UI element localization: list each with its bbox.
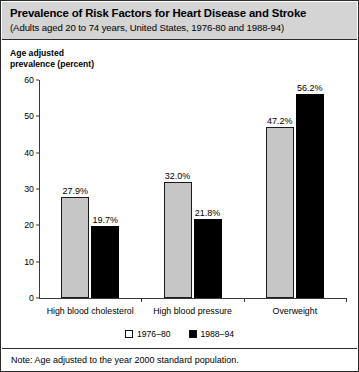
y-axis-caption: Age adjusted prevalence (percent) (10, 48, 94, 69)
legend-swatch-icon (189, 330, 197, 338)
y-axis-tick-mark (36, 261, 39, 262)
y-axis-tick-mark (36, 189, 39, 190)
y-axis-tick-label: 0 (29, 293, 34, 303)
y-axis-tick-label: 20 (24, 220, 34, 230)
y-axis-tick-label: 60 (24, 75, 34, 85)
x-axis-tick-mark (244, 298, 245, 302)
y-axis-caption-line1: Age adjusted (10, 48, 94, 59)
chart-note-band: Note: Age adjusted to the year 2000 stan… (2, 348, 357, 371)
chart-title: Prevalence of Risk Factors for Heart Dis… (10, 6, 357, 20)
bar-value-label: 27.9% (62, 186, 88, 196)
plot-area: 010203040506027.9%19.7%High blood choles… (39, 80, 346, 298)
legend-label: 1976–80 (137, 329, 170, 339)
bar-value-label: 19.7% (92, 215, 118, 225)
y-axis-tick-mark (36, 225, 39, 226)
y-axis-tick-mark (36, 298, 39, 299)
chart-note: Note: Age adjusted to the year 2000 stan… (11, 355, 239, 365)
x-axis-category-label: High blood pressure (153, 306, 232, 316)
bar-series1: 27.9% (61, 197, 89, 298)
chart-legend: 1976–801988–94 (1, 329, 358, 339)
x-axis-category-label: Overweight (273, 306, 318, 316)
chart-subtitle: (Adults aged 20 to 74 years, United Stat… (10, 21, 357, 34)
legend-swatch-icon (125, 330, 133, 338)
y-axis-tick-label: 40 (24, 148, 34, 158)
bar-series2: 56.2% (296, 94, 324, 298)
y-axis-tick-mark (36, 80, 39, 81)
y-axis-caption-line2: prevalence (percent) (10, 59, 94, 70)
bar-series1: 32.0% (164, 182, 192, 298)
y-axis-tick-mark (36, 152, 39, 153)
bar-series2: 19.7% (91, 226, 119, 298)
x-axis-line (39, 298, 346, 299)
legend-item: 1976–80 (125, 329, 170, 339)
y-axis-tick-mark (36, 116, 39, 117)
bar-value-label: 47.2% (267, 116, 293, 126)
x-axis-tick-mark (141, 298, 142, 302)
bar-value-label: 56.2% (297, 83, 323, 93)
x-axis-tick-mark (346, 298, 347, 302)
y-axis-tick-label: 10 (24, 257, 34, 267)
y-axis-tick-label: 50 (24, 111, 34, 121)
chart-figure: Prevalence of Risk Factors for Heart Dis… (0, 0, 359, 372)
bar-value-label: 32.0% (165, 171, 191, 181)
legend-item: 1988–94 (189, 329, 234, 339)
x-axis-category-label: High blood cholesterol (47, 306, 134, 316)
legend-label: 1988–94 (201, 329, 234, 339)
bar-value-label: 21.8% (195, 208, 221, 218)
bar-series1: 47.2% (266, 127, 294, 298)
y-axis-tick-label: 30 (24, 184, 34, 194)
bar-series2: 21.8% (194, 219, 222, 298)
chart-title-band: Prevalence of Risk Factors for Heart Dis… (2, 2, 357, 40)
